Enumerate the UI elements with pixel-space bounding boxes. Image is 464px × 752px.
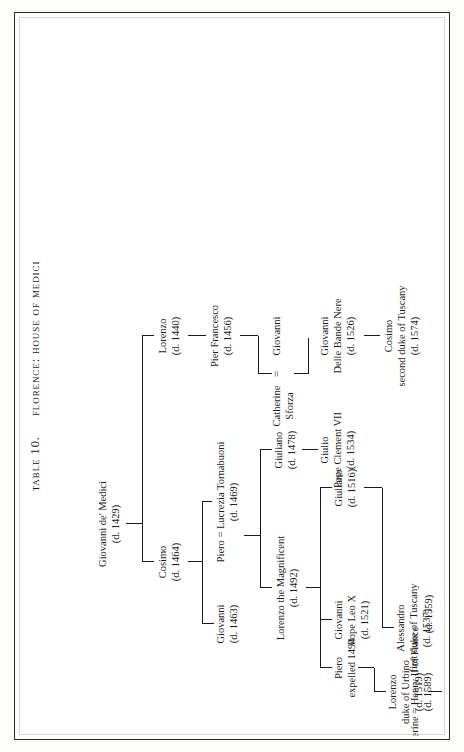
node-name: Pier Francesco (208, 305, 221, 367)
node-death: (d. 1440) (169, 317, 182, 356)
edge-tick-giovanni-1463 (202, 623, 214, 624)
node-giovanni-bande-nere: Giovanni Delle Bande Nere (d. 1526) (318, 298, 357, 373)
node-name: Giovanni (214, 604, 227, 643)
node-name: Giulio (318, 412, 331, 488)
node-catherine-henry-union: Catherine = Henry II of France (d. 1589) (408, 627, 434, 736)
edge-bar-cosimo-right (202, 502, 203, 562)
edge-bar-lorenzo-children (320, 488, 321, 668)
node-catherine-sforza: Catherine Sforza (270, 386, 296, 427)
node-name-2: Sforza (283, 386, 296, 427)
edge-tick-lorenzo-1440 (142, 335, 154, 336)
node-name: Giovanni (318, 298, 331, 373)
node-death: (d. 1521) (358, 595, 371, 645)
node-death: (d. 1526) (344, 298, 357, 373)
union-piero-lucrezia: Piero = Lucrezia Tornabuoni (214, 442, 227, 563)
edge-drop-bande-nere (364, 335, 380, 336)
edge-tick-piero-expelled (320, 667, 332, 668)
node-name: Giuliano (272, 431, 285, 470)
edge-drop-pier-francesco (240, 335, 258, 336)
node-name: Giovanni (270, 316, 283, 355)
node-name: Lorenzo (386, 660, 399, 724)
node-cosimo-tuscany: Cosimo second duke of Tuscany (d. 1574) (382, 285, 421, 386)
node-name: Piero (332, 638, 345, 697)
edge-tick-lorenzo-magnificent (260, 587, 272, 588)
edge-drop-piero (244, 535, 260, 536)
edge-bar-alessandro (382, 488, 383, 628)
node-name: Catherine (270, 386, 283, 427)
edge-drop-lorenzo-1440 (188, 335, 206, 336)
union-catherine-henry: Catherine = Henry II of France (408, 627, 421, 736)
node-giovanni-sforza-union: Giovanni (270, 316, 283, 355)
edge-tick-cosimo (142, 561, 154, 562)
edge-bar-piero-left (260, 536, 261, 588)
edge-drop-piero-expelled (358, 667, 374, 668)
edge-drop-sforza-union (294, 373, 308, 374)
node-piero-expelled: Piero expelled 1494 (332, 638, 358, 697)
node-death: (d. 1469) (227, 442, 240, 563)
genealogy-chart: Table 10. Florence: House of Medici Giov… (18, 16, 446, 736)
node-name: Cosimo (156, 543, 169, 582)
node-title: Delle Bande Nere (331, 298, 344, 373)
node-name: Lorenzo (156, 317, 169, 356)
edge-tick-piero-1469 (202, 501, 212, 502)
edge-bar-cosimo-left (202, 562, 203, 624)
node-death-henry: (d. 1559) (422, 595, 435, 634)
book-page: Table 10. Florence: House of Medici Giov… (0, 0, 464, 752)
node-pier-francesco: Pier Francesco (d. 1456) (208, 305, 234, 367)
edge-drop-cosimo (188, 561, 202, 562)
edge-bar-piero-right (260, 450, 261, 536)
node-death: (d. 1516) (345, 469, 358, 508)
node-death: (d. 1429) (109, 481, 122, 567)
page-title: Table 10. Florence: House of Medici (28, 16, 43, 736)
table-label: Table 10. (28, 436, 42, 491)
edge-bar-bande-nere (308, 338, 309, 374)
edge-bar-lorenzo-urbino (374, 668, 375, 692)
node-title: expelled 1494 (345, 638, 358, 697)
union-equals-sforza: = (271, 371, 282, 377)
node-death: (d. 1492) (287, 536, 300, 640)
chart-viewport: Table 10. Florence: House of Medici Giov… (18, 16, 446, 736)
node-giovanni-1463: Giovanni (d. 1463) (214, 604, 240, 643)
node-giuliano-1478: Giuliano (d. 1478) (272, 431, 298, 470)
edge-bar-pier-francesco (258, 336, 259, 374)
node-lorenzo-1440: Lorenzo (d. 1440) (156, 317, 182, 356)
edge-tick-giovanni-leo-x (320, 619, 332, 620)
node-death: (d. 1574) (408, 285, 421, 386)
node-death: (d. 1478) (285, 431, 298, 470)
edge-drop-giuliano-1478 (302, 449, 318, 450)
edge-drop-lorenzo-magnificent (306, 587, 320, 588)
node-name: Giuliano (332, 469, 345, 508)
table-heading: Florence: House of Medici (28, 261, 42, 416)
edge-sibling-bar-g1 (142, 336, 143, 562)
edge-tick-giuliano-1478 (260, 449, 272, 450)
node-name: Giovanni de' Medici (96, 481, 109, 567)
node-death: (d. 1456) (221, 305, 234, 367)
node-death: (d. 1464) (169, 543, 182, 582)
node-cosimo-1464: Cosimo (d. 1464) (156, 543, 182, 582)
edge-tick-alessandro (382, 627, 394, 628)
node-name: Lorenzo the Magnificent (274, 536, 287, 640)
node-title: second duke of Tuscany (395, 285, 408, 386)
node-lorenzo-magnificent: Lorenzo the Magnificent (d. 1492) (274, 536, 300, 640)
edge-drop-g1 (126, 523, 142, 524)
node-giovanni-de-medici: Giovanni de' Medici (d. 1429) (96, 481, 122, 567)
edge-drop-giuliano-1516 (364, 487, 382, 488)
node-giuliano-1516: Giuliano (d. 1516) (332, 469, 358, 508)
node-piero-lucrezia-union: Piero = Lucrezia Tornabuoni (d. 1469) (214, 442, 240, 563)
node-death: (d. 1463) (227, 604, 240, 643)
edge-tick-lorenzo-urbino (374, 691, 386, 692)
node-death-catherine: (d. 1589) (421, 627, 434, 736)
node-name: Cosimo (382, 285, 395, 386)
node-henry-ii-death: (d. 1559) (422, 595, 435, 634)
